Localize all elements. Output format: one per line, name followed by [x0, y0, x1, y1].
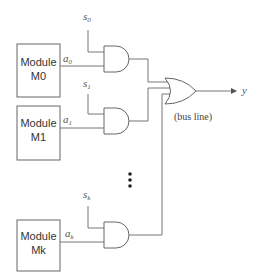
- select-s1-label: s1: [83, 77, 91, 91]
- wire-andk-or: [129, 94, 172, 235]
- bus-line-label: (bus line): [174, 111, 212, 123]
- or-gate: [165, 78, 196, 104]
- signal-a0-label: a0: [63, 52, 73, 66]
- wire-s0: [88, 30, 104, 52]
- svg-text:M0: M0: [31, 70, 46, 82]
- module-m1: Module M1: [17, 106, 60, 160]
- svg-text:M1: M1: [31, 131, 46, 143]
- select-s0-label: s0: [83, 10, 91, 24]
- wire-s1: [88, 94, 104, 114]
- module-mk: Module Mk: [17, 220, 60, 271]
- svg-text:Module: Module: [20, 117, 56, 129]
- output-y-label: y: [241, 84, 247, 96]
- and-gate-1: [104, 108, 129, 134]
- svg-text:Module: Module: [20, 230, 56, 242]
- module-m0: Module M0: [17, 44, 60, 97]
- wire-sk: [88, 206, 104, 228]
- and-gate-k: [104, 222, 129, 248]
- and-gate-0: [104, 46, 129, 72]
- wire-and1-or: [129, 88, 170, 121]
- wire-and0-or: [129, 59, 170, 82]
- svg-text:Mk: Mk: [31, 244, 46, 256]
- signal-a1-label: a1: [63, 113, 72, 127]
- signal-ak-label: ak: [65, 227, 75, 241]
- ellipsis-dots: [128, 172, 132, 188]
- bus-diagram: Module M0 a0 s0 Module M1 a1 s1 Module M…: [0, 0, 265, 277]
- svg-text:Module: Module: [20, 56, 56, 68]
- select-sk-label: sk: [83, 188, 91, 202]
